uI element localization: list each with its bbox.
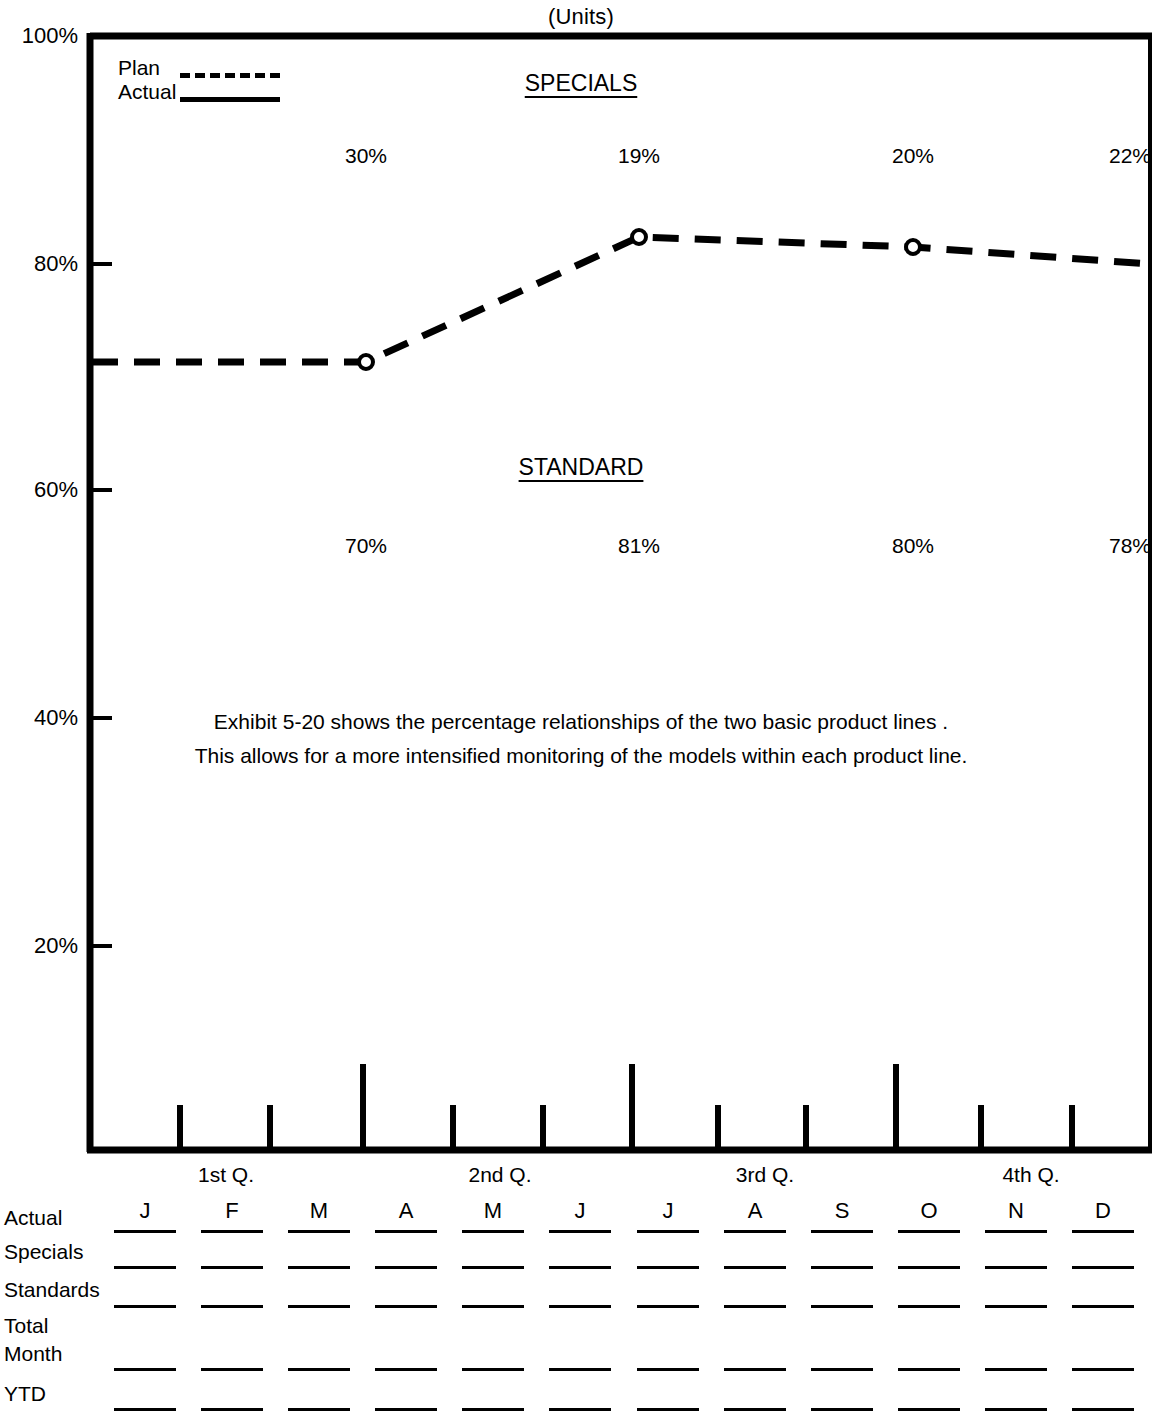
row-label-ytd: YTD <box>4 1382 46 1406</box>
table-cell-actual-aug[interactable] <box>724 1230 786 1233</box>
table-cell-total-month-jan[interactable] <box>114 1368 176 1371</box>
worksheet-table: J F M A M J J A S O N D Actual <box>0 1196 1162 1415</box>
table-cell-specials-jan[interactable] <box>114 1266 176 1269</box>
quarter-label-1: 1st Q. <box>198 1163 254 1187</box>
table-cell-actual-jul[interactable] <box>637 1230 699 1233</box>
table-cell-actual-nov[interactable] <box>985 1230 1047 1233</box>
table-row-actual: Actual <box>0 1196 1162 1234</box>
row-label-standards: Standards <box>4 1278 100 1302</box>
table-cell-actual-jun[interactable] <box>549 1230 611 1233</box>
table-cell-standards-jan[interactable] <box>114 1305 176 1308</box>
standard-value-q3: 80% <box>892 534 934 558</box>
y-tick-label-100: 100% <box>2 23 78 49</box>
table-cell-ytd-jul[interactable] <box>637 1408 699 1411</box>
quarter-label-4: 4th Q. <box>1002 1163 1059 1187</box>
table-cell-ytd-aug[interactable] <box>724 1408 786 1411</box>
table-cell-ytd-dec[interactable] <box>1072 1408 1134 1411</box>
table-cell-specials-dec[interactable] <box>1072 1266 1134 1269</box>
table-cell-ytd-nov[interactable] <box>985 1408 1047 1411</box>
quarter-label-2: 2nd Q. <box>468 1163 531 1187</box>
specials-value-q3: 20% <box>892 144 934 168</box>
table-cell-actual-sep[interactable] <box>811 1230 873 1233</box>
table-cell-standards-aug[interactable] <box>724 1305 786 1308</box>
table-cell-actual-may[interactable] <box>462 1230 524 1233</box>
table-cell-specials-oct[interactable] <box>898 1266 960 1269</box>
table-cell-specials-nov[interactable] <box>985 1266 1047 1269</box>
table-cell-standards-feb[interactable] <box>201 1305 263 1308</box>
table-cell-total-month-jul[interactable] <box>637 1368 699 1371</box>
table-cell-specials-may[interactable] <box>462 1266 524 1269</box>
table-cell-standards-mar[interactable] <box>288 1305 350 1308</box>
table-cell-total-month-sep[interactable] <box>811 1368 873 1371</box>
row-label-actual: Actual <box>4 1206 62 1230</box>
table-cell-specials-aug[interactable] <box>724 1266 786 1269</box>
row-label-specials: Specials <box>4 1240 83 1264</box>
table-cell-standards-sep[interactable] <box>811 1305 873 1308</box>
table-cell-ytd-sep[interactable] <box>811 1408 873 1411</box>
table-cell-actual-dec[interactable] <box>1072 1230 1134 1233</box>
table-cell-standards-jun[interactable] <box>549 1305 611 1308</box>
table-cell-ytd-mar[interactable] <box>288 1408 350 1411</box>
table-cell-actual-mar[interactable] <box>288 1230 350 1233</box>
table-cell-standards-apr[interactable] <box>375 1305 437 1308</box>
table-cell-ytd-apr[interactable] <box>375 1408 437 1411</box>
specials-value-q4: 22% <box>1109 144 1151 168</box>
table-cell-actual-oct[interactable] <box>898 1230 960 1233</box>
table-cell-total-month-jun[interactable] <box>549 1368 611 1371</box>
table-cell-ytd-feb[interactable] <box>201 1408 263 1411</box>
narrative-line-1: Exhibit 5-20 shows the percentage relati… <box>0 705 1162 739</box>
table-cell-standards-nov[interactable] <box>985 1305 1047 1308</box>
table-cell-total-month-dec[interactable] <box>1072 1368 1134 1371</box>
legend-swatch-solid-line <box>180 97 280 102</box>
row-label-month: Month <box>4 1342 62 1366</box>
plot-frame <box>87 33 1152 1152</box>
table-cell-standards-dec[interactable] <box>1072 1305 1134 1308</box>
table-cell-ytd-may[interactable] <box>462 1408 524 1411</box>
table-cell-total-month-feb[interactable] <box>201 1368 263 1371</box>
x-axis-ticks <box>180 1064 1072 1150</box>
y-tick-label-80: 80% <box>2 251 78 277</box>
specials-value-q2: 19% <box>618 144 660 168</box>
table-cell-specials-feb[interactable] <box>201 1266 263 1269</box>
table-cell-actual-feb[interactable] <box>201 1230 263 1233</box>
table-cell-total-month-oct[interactable] <box>898 1368 960 1371</box>
table-cell-total-month-mar[interactable] <box>288 1368 350 1371</box>
table-cell-ytd-oct[interactable] <box>898 1408 960 1411</box>
table-row-specials: Specials <box>0 1234 1162 1272</box>
quarter-label-3: 3rd Q. <box>736 1163 794 1187</box>
table-cell-ytd-jun[interactable] <box>549 1408 611 1411</box>
narrative-block: Exhibit 5-20 shows the percentage relati… <box>0 705 1162 773</box>
table-cell-total-month-nov[interactable] <box>985 1368 1047 1371</box>
standard-value-q1: 70% <box>345 534 387 558</box>
specials-value-q1: 30% <box>345 144 387 168</box>
table-cell-ytd-jan[interactable] <box>114 1408 176 1411</box>
standard-value-q2: 81% <box>618 534 660 558</box>
table-cell-specials-jul[interactable] <box>637 1266 699 1269</box>
table-cell-total-month-may[interactable] <box>462 1368 524 1371</box>
table-cell-standards-may[interactable] <box>462 1305 524 1308</box>
table-cell-specials-apr[interactable] <box>375 1266 437 1269</box>
table-cell-standards-jul[interactable] <box>637 1305 699 1308</box>
table-cell-specials-jun[interactable] <box>549 1266 611 1269</box>
plan-series-markers <box>359 230 920 369</box>
table-cell-specials-mar[interactable] <box>288 1266 350 1269</box>
table-cell-total-month-aug[interactable] <box>724 1368 786 1371</box>
table-row-ytd: YTD <box>0 1376 1162 1415</box>
table-cell-standards-oct[interactable] <box>898 1305 960 1308</box>
table-cell-total-month-apr[interactable] <box>375 1368 437 1371</box>
narrative-line-2: This allows for a more intensified monit… <box>0 739 1162 773</box>
table-row-standards: Standards <box>0 1272 1162 1312</box>
standard-value-q4: 78% <box>1109 534 1151 558</box>
y-tick-label-20: 20% <box>2 933 78 959</box>
table-cell-actual-jan[interactable] <box>114 1230 176 1233</box>
specials-heading: SPECIALS <box>0 70 1162 97</box>
plan-series-line <box>92 237 1150 362</box>
standard-heading: STANDARD <box>0 454 1162 481</box>
table-cell-actual-apr[interactable] <box>375 1230 437 1233</box>
table-row-total-month: Total Month <box>0 1312 1162 1376</box>
table-cell-specials-sep[interactable] <box>811 1266 873 1269</box>
row-label-total: Total <box>4 1314 48 1338</box>
